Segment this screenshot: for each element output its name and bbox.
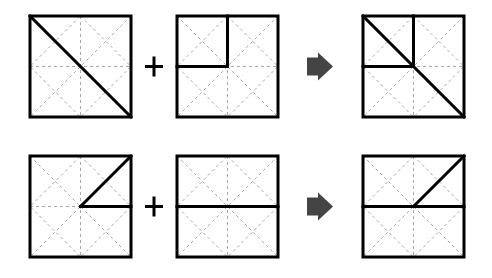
right-arrow-icon	[307, 53, 333, 81]
plus-icon	[145, 57, 163, 77]
plus-icon	[145, 197, 163, 217]
result-square	[363, 16, 464, 117]
operand-a-square	[30, 156, 131, 257]
operand-b-square	[177, 16, 278, 117]
result-square	[363, 156, 464, 257]
operand-b-square	[177, 156, 278, 257]
puzzle-diagram	[0, 0, 492, 278]
right-arrow-icon	[307, 193, 333, 221]
operand-a-square	[30, 16, 131, 117]
